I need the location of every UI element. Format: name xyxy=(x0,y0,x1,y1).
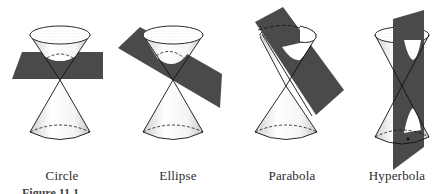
label-circle: Circle xyxy=(46,168,79,184)
ellipse-panel xyxy=(118,26,222,140)
cutting-plane xyxy=(255,7,344,115)
label-ellipse: Ellipse xyxy=(159,168,197,184)
parabola-panel xyxy=(255,7,344,140)
label-parabola: Parabola xyxy=(268,168,315,184)
label-hyperbola: Hyperbola xyxy=(369,168,426,184)
cutting-plane xyxy=(393,10,424,170)
figure-caption: Figure 11.1 xyxy=(22,186,79,194)
hyperbola-panel xyxy=(375,10,429,170)
circle-panel xyxy=(12,26,103,140)
lower-nappe xyxy=(30,80,90,140)
conic-sections-figure xyxy=(0,0,441,194)
